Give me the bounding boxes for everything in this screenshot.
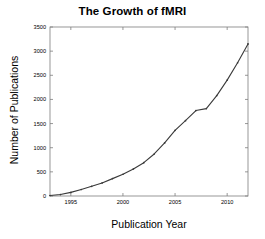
x-tick-label: 2005 — [162, 199, 188, 205]
x-tick-label: 1995 — [58, 199, 84, 205]
chart-figure: The Growth of fMRI Number of Publication… — [0, 0, 265, 239]
x-tick-label: 2000 — [110, 199, 136, 205]
y-tick-label: 3500 — [20, 24, 46, 30]
y-tick-label: 500 — [20, 169, 46, 175]
x-tick-label: 2010 — [214, 199, 240, 205]
y-tick-label: 1500 — [20, 121, 46, 127]
y-tick-label: 2500 — [20, 72, 46, 78]
y-tick-label: 2000 — [20, 96, 46, 102]
data-series — [49, 43, 249, 196]
axes-frame — [50, 27, 248, 196]
tick-marks — [50, 27, 248, 196]
y-tick-label: 3000 — [20, 48, 46, 54]
y-tick-label: 0 — [20, 193, 46, 199]
y-tick-label: 1000 — [20, 145, 46, 151]
